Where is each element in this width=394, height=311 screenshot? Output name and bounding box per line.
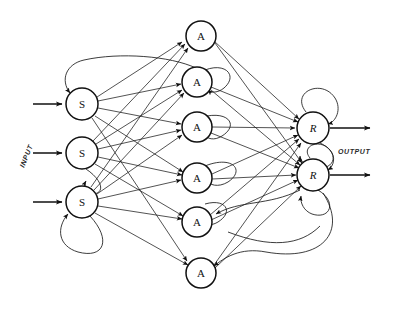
network-graphic: S S S A A A A A: [0, 0, 394, 311]
edge-s2-a3: [98, 130, 181, 149]
loop-s3-self: [61, 214, 103, 253]
edge-a1-r2: [215, 43, 302, 163]
edge-s1-a4: [95, 116, 183, 172]
node-s3-label: S: [79, 196, 85, 208]
node-r2-label: R: [309, 169, 317, 181]
edge-s3-a6: [95, 213, 188, 265]
node-a5: A: [182, 207, 212, 237]
edge-a5-r2: [211, 180, 298, 220]
node-a3-label: A: [193, 121, 201, 133]
loop-to-s1: [65, 56, 196, 93]
node-a4-label: A: [193, 172, 201, 184]
edge-s1-a1: [97, 42, 182, 97]
loop-r-to-a5: [216, 190, 300, 214]
loop-r-to-a6: [214, 193, 333, 266]
node-a1-label: A: [197, 30, 205, 42]
node-s2-label: S: [79, 147, 85, 159]
edge-a1-r1: [214, 41, 299, 119]
node-a6-label: A: [197, 267, 205, 279]
loop-under-a-column: [228, 226, 320, 243]
node-a5-label: A: [193, 216, 201, 228]
edge-s2-a1: [93, 44, 185, 141]
node-r1: R: [297, 112, 329, 144]
perceptron-diagram: S S S A A A A A: [0, 0, 394, 311]
node-a3: A: [182, 112, 212, 142]
node-s1: S: [66, 88, 98, 120]
edge-a4-r1: [212, 135, 298, 174]
node-s3: S: [66, 186, 98, 218]
node-a1: A: [186, 21, 216, 51]
edge-s1-a3: [98, 108, 181, 124]
node-a6: A: [186, 258, 216, 288]
edge-s2-a2: [96, 90, 182, 144]
node-a4: A: [182, 163, 212, 193]
input-label: INPUT: [18, 143, 34, 168]
edge-a6-r1: [214, 143, 301, 265]
node-s1-label: S: [79, 98, 85, 110]
loop-r2-lower: [301, 190, 330, 215]
edge-s2-a5: [95, 164, 183, 216]
edges-association-to-response: [210, 41, 302, 268]
node-s2: S: [66, 137, 98, 169]
node-a2: A: [182, 67, 212, 97]
node-a2-label: A: [193, 76, 201, 88]
input-arrows: [33, 104, 62, 202]
node-r2: R: [297, 159, 329, 191]
node-r1-label: R: [309, 122, 317, 134]
edge-s3-a4: [98, 180, 181, 199]
output-label: OUTPUT: [338, 148, 370, 155]
edges-sensory-to-association: [91, 42, 188, 265]
edge-s3-a3: [97, 135, 182, 194]
edge-a3-r1: [212, 127, 295, 128]
